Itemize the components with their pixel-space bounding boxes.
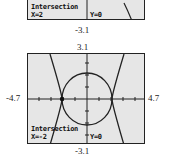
graph-2-ymin-label: -3.1 xyxy=(75,147,89,156)
intersection-label-1: Intersection xyxy=(31,4,78,11)
calculator-screen-1: Intersection X=2 Y=0 xyxy=(27,0,145,20)
graph-2-xmin-label: -4.7 xyxy=(6,94,20,103)
y-value-2: Y=0 xyxy=(90,134,102,141)
x-value-1: X=2 xyxy=(31,12,43,19)
calculator-screen-2: Intersection X=-2 Y=0 xyxy=(27,53,145,144)
x-value-2: X=-2 xyxy=(31,134,47,141)
graph-2-xmax-label: 4.7 xyxy=(148,94,159,103)
graph-2-ymax-label: 3.1 xyxy=(77,43,88,52)
y-value-1: Y=0 xyxy=(90,12,102,19)
intersection-cursor xyxy=(60,97,64,101)
intersection-label-2: Intersection xyxy=(31,126,78,133)
graph-1-ymin-label: -3.1 xyxy=(75,26,89,35)
